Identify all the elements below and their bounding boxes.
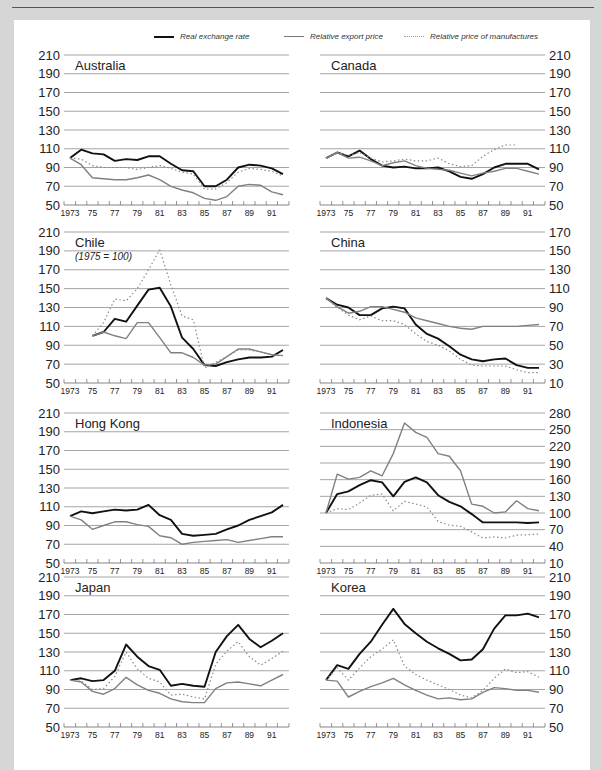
svg-text:91: 91 xyxy=(523,386,533,396)
svg-text:83: 83 xyxy=(433,730,443,740)
svg-text:210: 210 xyxy=(38,225,60,240)
svg-text:280: 280 xyxy=(549,406,571,421)
svg-text:130: 130 xyxy=(549,123,571,138)
svg-text:77: 77 xyxy=(366,386,376,396)
series-real-exchange-rate xyxy=(70,625,283,687)
svg-text:75: 75 xyxy=(344,386,354,396)
svg-text:75: 75 xyxy=(344,566,354,576)
svg-text:190: 190 xyxy=(38,424,60,439)
svg-text:85: 85 xyxy=(456,386,466,396)
svg-text:190: 190 xyxy=(549,456,571,471)
svg-text:50: 50 xyxy=(46,556,60,571)
svg-text:89: 89 xyxy=(501,730,511,740)
svg-text:89: 89 xyxy=(501,208,511,218)
svg-text:83: 83 xyxy=(177,208,187,218)
svg-text:85: 85 xyxy=(456,208,466,218)
svg-text:90: 90 xyxy=(46,518,60,533)
svg-text:50: 50 xyxy=(46,720,60,735)
svg-text:Indonesia: Indonesia xyxy=(331,416,388,431)
svg-text:220: 220 xyxy=(549,439,571,454)
svg-text:87: 87 xyxy=(222,730,232,740)
svg-text:Japan: Japan xyxy=(75,580,110,595)
series-real-exchange-rate xyxy=(326,609,539,680)
svg-text:90: 90 xyxy=(46,338,60,353)
chart-indonesia: 2802502201901601301007040101973757779818… xyxy=(317,406,571,577)
svg-text:130: 130 xyxy=(549,489,571,504)
svg-text:210: 210 xyxy=(38,48,60,63)
svg-text:77: 77 xyxy=(110,208,120,218)
svg-text:170: 170 xyxy=(38,443,60,458)
svg-text:83: 83 xyxy=(177,386,187,396)
chart-hong-kong: 2101901701501301109070501973757779818385… xyxy=(38,406,289,577)
svg-text:110: 110 xyxy=(549,141,570,156)
svg-text:90: 90 xyxy=(46,160,60,175)
svg-text:81: 81 xyxy=(411,386,421,396)
svg-text:Australia: Australia xyxy=(75,58,126,73)
svg-text:81: 81 xyxy=(155,386,165,396)
svg-text:70: 70 xyxy=(549,522,563,537)
svg-text:85: 85 xyxy=(456,566,466,576)
svg-text:87: 87 xyxy=(478,386,488,396)
svg-text:150: 150 xyxy=(38,281,60,296)
svg-text:50: 50 xyxy=(549,338,563,353)
svg-text:83: 83 xyxy=(177,566,187,576)
series-real-exchange-rate xyxy=(92,288,283,366)
svg-text:210: 210 xyxy=(549,48,571,63)
chart-china: 1701501301109070503010197375777981838587… xyxy=(317,225,571,397)
svg-text:Hong Kong: Hong Kong xyxy=(75,416,140,431)
svg-text:150: 150 xyxy=(549,243,571,258)
svg-text:79: 79 xyxy=(389,566,399,576)
svg-text:75: 75 xyxy=(344,730,354,740)
svg-text:110: 110 xyxy=(39,499,60,514)
svg-text:1973: 1973 xyxy=(61,730,80,740)
svg-text:50: 50 xyxy=(46,376,60,391)
svg-text:70: 70 xyxy=(46,537,60,552)
svg-text:150: 150 xyxy=(38,462,60,477)
svg-text:79: 79 xyxy=(133,566,143,576)
svg-text:1973: 1973 xyxy=(317,566,336,576)
svg-text:77: 77 xyxy=(366,730,376,740)
svg-text:79: 79 xyxy=(389,730,399,740)
svg-text:1973: 1973 xyxy=(61,208,80,218)
svg-text:70: 70 xyxy=(549,179,563,194)
svg-text:50: 50 xyxy=(549,198,563,213)
svg-text:30: 30 xyxy=(549,357,563,372)
svg-text:87: 87 xyxy=(478,566,488,576)
svg-text:190: 190 xyxy=(38,66,60,81)
svg-text:79: 79 xyxy=(133,208,143,218)
svg-text:160: 160 xyxy=(549,472,571,487)
series-real-exchange-rate xyxy=(326,298,539,368)
svg-text:87: 87 xyxy=(222,566,232,576)
svg-text:40: 40 xyxy=(549,539,563,554)
svg-text:90: 90 xyxy=(549,160,563,175)
svg-text:170: 170 xyxy=(38,262,60,277)
svg-text:170: 170 xyxy=(38,607,60,622)
svg-text:91: 91 xyxy=(267,208,277,218)
svg-text:170: 170 xyxy=(549,225,571,240)
svg-text:170: 170 xyxy=(38,85,60,100)
svg-text:77: 77 xyxy=(110,566,120,576)
svg-text:170: 170 xyxy=(549,607,571,622)
svg-text:70: 70 xyxy=(46,357,60,372)
series-real-exchange-rate xyxy=(326,151,539,179)
svg-text:85: 85 xyxy=(200,566,210,576)
svg-text:70: 70 xyxy=(46,701,60,716)
svg-text:210: 210 xyxy=(38,406,60,421)
svg-text:79: 79 xyxy=(133,386,143,396)
chart-australia: 2101901701501301109070501973757779818385… xyxy=(38,48,289,219)
svg-text:China: China xyxy=(331,235,366,250)
svg-text:83: 83 xyxy=(433,386,443,396)
svg-text:110: 110 xyxy=(39,663,60,678)
svg-text:70: 70 xyxy=(549,319,563,334)
svg-text:81: 81 xyxy=(155,566,165,576)
series-relative-export-price xyxy=(326,423,539,513)
svg-text:75: 75 xyxy=(88,208,98,218)
svg-text:150: 150 xyxy=(38,626,60,641)
svg-text:79: 79 xyxy=(389,208,399,218)
series-real-exchange-rate xyxy=(70,150,283,187)
svg-text:77: 77 xyxy=(110,730,120,740)
svg-text:190: 190 xyxy=(549,588,571,603)
svg-text:210: 210 xyxy=(38,570,60,585)
svg-text:Chile: Chile xyxy=(75,235,105,250)
series-real-exchange-rate xyxy=(70,505,283,536)
